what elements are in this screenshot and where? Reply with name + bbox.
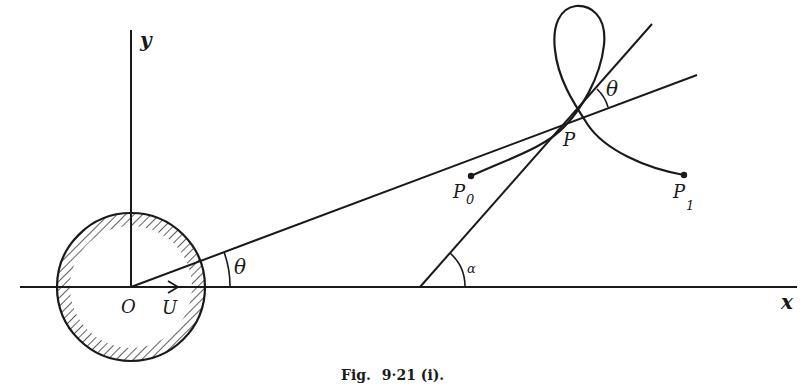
origin-label: O — [121, 296, 136, 317]
figure-diagram: y x O U θ α θ P P 0 P 1 Fig. 9·21 (i). — [0, 0, 806, 390]
svg-text:Fig. 9·21 (i).: Fig. 9·21 (i). — [341, 367, 444, 383]
theta-arc-origin — [224, 252, 230, 287]
tangent-line — [420, 24, 652, 287]
point-P-label: P — [562, 129, 576, 150]
svg-text:P: P — [452, 181, 466, 202]
point-P1-dot — [681, 172, 687, 178]
x-axis-label: x — [780, 290, 794, 314]
point-P0-dot — [468, 173, 474, 179]
point-P1-label: P 1 — [672, 181, 694, 213]
svg-text:P: P — [672, 181, 686, 202]
alpha-arc — [450, 253, 465, 287]
figure-caption: Fig. 9·21 (i). — [341, 367, 444, 383]
theta-label-origin: θ — [234, 255, 246, 279]
theta-label-P: θ — [606, 77, 618, 101]
velocity-label: U — [162, 297, 178, 318]
svg-text:0: 0 — [466, 192, 474, 207]
point-P0-label: P 0 — [452, 181, 474, 207]
radius-line-OP — [131, 75, 697, 287]
svg-text:1: 1 — [686, 198, 694, 213]
alpha-label: α — [467, 261, 476, 276]
y-axis-label: y — [139, 28, 153, 52]
